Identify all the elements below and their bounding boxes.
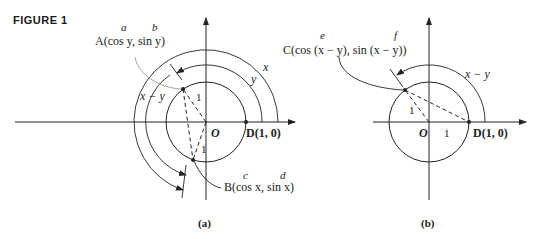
radius-label-oc: 1: [409, 104, 415, 116]
caption-b: (b): [421, 217, 435, 230]
label-f: f: [394, 29, 399, 41]
arc-y-label: y: [250, 72, 257, 86]
arc-x-label: x: [262, 60, 269, 74]
radius-label-oa: 1: [196, 91, 202, 103]
tick-c: [390, 69, 403, 87]
arc-y: [177, 65, 262, 122]
figure-canvas: a b A(cos y, sin y) x y x − y 1 1 O D(1,…: [0, 0, 550, 239]
arc-x-minus-y-label: x − y: [139, 89, 165, 103]
panel-a: a b A(cos y, sin y) x y x − y 1 1 O D(1,…: [15, 18, 295, 230]
point-c: [403, 88, 407, 92]
caption-a: (a): [198, 217, 211, 230]
tick-b: [182, 165, 186, 198]
panel-b: e f C(cos (x − y), sin (x − y)) x − y 1 …: [283, 18, 526, 230]
label-a: a: [121, 21, 127, 33]
point-b-label: B(cos x, sin x): [224, 180, 294, 194]
leader-b: [194, 161, 221, 188]
radius-label-od: 1: [444, 127, 450, 139]
label-e: e: [320, 29, 325, 41]
point-d-label: D(1, 0): [473, 126, 508, 140]
chord-cd: [405, 90, 469, 122]
label-b: b: [152, 21, 158, 33]
point-c-label: C(cos (x − y), sin (x − y)): [283, 43, 407, 57]
leader-a: [135, 57, 181, 89]
radius-label-ob: 1: [201, 143, 207, 155]
origin-label: O: [211, 126, 220, 140]
point-a-label: A(cos y, sin y): [95, 34, 165, 48]
arc-x-minus-y-label: x − y: [464, 67, 490, 81]
tick-a: [170, 64, 182, 80]
origin-label: O: [419, 126, 428, 140]
point-d: [244, 120, 248, 124]
point-d-label: D(1, 0): [246, 126, 281, 140]
point-a: [181, 87, 185, 91]
point-d: [467, 120, 471, 124]
chord-ab: [183, 89, 193, 160]
